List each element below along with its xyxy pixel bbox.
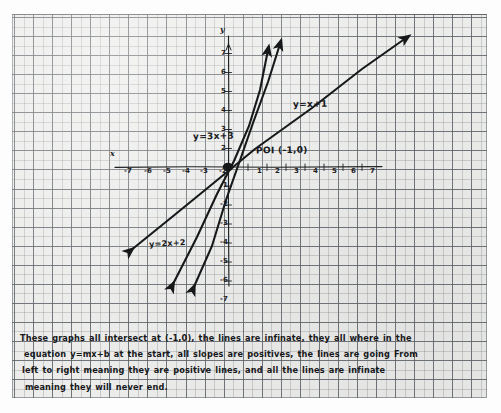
x-tick-5: 5 [332, 167, 337, 175]
x-tick--5: -5 [163, 167, 171, 175]
x-tick-2: 2 [275, 167, 280, 175]
x-tick--3: -3 [200, 167, 208, 175]
x-tick-4: 4 [313, 167, 318, 175]
paragraph-line-1: These graphs all intersect at (-1,0), th… [20, 330, 472, 346]
y-tick-7: 7 [221, 49, 226, 57]
x-tick-3: 3 [294, 167, 299, 175]
y-tick--7: -7 [220, 295, 228, 303]
y-tick--6: -6 [220, 276, 228, 284]
x-tick--7: -7 [124, 167, 132, 175]
label-point-of-intersection: POI (-1,0) [256, 145, 308, 156]
label-equation-y-x-1: y=x+1 [293, 99, 328, 110]
x-tick-1: 1 [257, 167, 262, 175]
label-equation-y-3x-3: y=3x+3 [193, 130, 234, 141]
y-axis-label: y [220, 24, 225, 34]
x-tick--6: -6 [144, 167, 152, 175]
x-axis-label: x [110, 148, 115, 158]
handwritten-paragraph: These graphs all intersect at (-1,0), th… [20, 330, 472, 395]
y-tick--5: -5 [220, 257, 228, 265]
y-tick-5: 5 [221, 87, 226, 95]
y-tick--2: -2 [220, 200, 228, 208]
paragraph-line-3: left to right meaning they are positive … [20, 362, 472, 378]
y-tick-6: 6 [221, 68, 226, 76]
y-tick--4: -4 [220, 238, 228, 246]
label-equation-y-2x-2: y=2x+2 [149, 238, 186, 249]
screenshot-root: x y -7 -6 -5 -4 -3 -2 1 2 3 4 5 6 7 7 6 … [0, 0, 501, 413]
paragraph-line-2: equation y=mx+b at the start, all slopes… [20, 346, 472, 362]
y-tick-4: 4 [221, 106, 226, 114]
y-tick--3: -3 [220, 219, 228, 227]
y-axis [228, 36, 229, 286]
x-tick--2: -2 [219, 167, 227, 175]
paragraph-line-4: meaning they will never end. [20, 379, 472, 395]
x-tick--4: -4 [182, 167, 190, 175]
y-tick-2: 2 [221, 144, 226, 152]
x-tick-6: 6 [351, 167, 356, 175]
x-tick-7: 7 [370, 167, 375, 175]
y-tick--1: -1 [220, 181, 228, 189]
x-axis [115, 167, 382, 168]
